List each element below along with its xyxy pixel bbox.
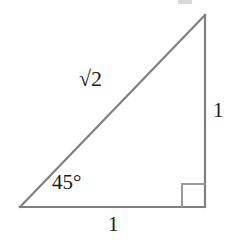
right-angle-marker-icon xyxy=(182,184,205,207)
triangle-drawing xyxy=(0,0,235,240)
vertical-side-label: 1 xyxy=(213,100,224,121)
scan-artifact-mark xyxy=(178,0,192,4)
geometry-figure: √2 45° 1 1 xyxy=(0,0,235,240)
hypotenuse-label: √2 xyxy=(78,68,102,90)
horizontal-side-label: 1 xyxy=(108,214,119,235)
square-root-glyph: √2 xyxy=(78,68,102,90)
angle-label: 45° xyxy=(52,172,81,193)
hypotenuse-line xyxy=(20,15,205,207)
